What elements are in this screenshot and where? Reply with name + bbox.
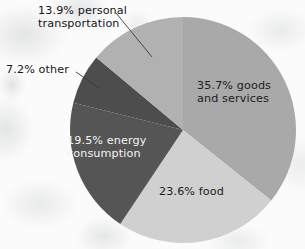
pie-chart-figure: 35.7% goods and services 23.6% food 19.5… — [0, 0, 305, 249]
pie-label-energy-consumption: 19.5% energy consumption — [67, 135, 146, 160]
pie-label-other: 7.2% other — [6, 64, 69, 77]
pie-label-personal-transportation: 13.9% personal transportation — [38, 5, 127, 30]
pie-chart-svg — [0, 0, 305, 249]
pie-label-food: 23.6% food — [159, 186, 224, 199]
pie-label-goods-and-services: 35.7% goods and services — [197, 80, 271, 105]
